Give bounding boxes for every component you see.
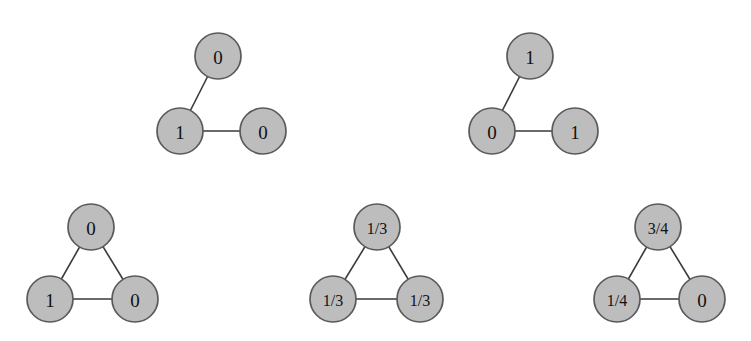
graph-node-label: 1/3 [367, 220, 387, 237]
graph-node: 0 [68, 204, 114, 250]
graph-node-label: 0 [86, 218, 96, 239]
graph-node: 3/4 [635, 204, 681, 250]
graph-node-label: 0 [487, 122, 497, 143]
graph-top-left: 010 [157, 33, 286, 154]
graph-bottom-middle: 1/31/31/3 [310, 204, 443, 322]
graph-node-label: 0 [697, 290, 707, 311]
graph-node: 1/3 [310, 276, 356, 322]
graph-node: 0 [240, 108, 286, 154]
graph-node: 1 [157, 108, 203, 154]
graph-node: 1/3 [397, 276, 443, 322]
graph-node-label: 1 [570, 122, 580, 143]
graph-top-right: 101 [469, 33, 598, 154]
graph-node-label: 1/4 [607, 292, 627, 309]
graph-node-label: 1 [525, 47, 535, 68]
graph-node: 1/3 [354, 204, 400, 250]
graph-node-label: 0 [258, 122, 268, 143]
graph-node-label: 0 [213, 47, 223, 68]
graph-node: 1 [507, 33, 553, 79]
graph-node-label: 1 [45, 290, 55, 311]
graph-node: 0 [195, 33, 241, 79]
graph-node-label: 1 [175, 122, 185, 143]
graph-node: 1 [552, 108, 598, 154]
graph-node-label: 1/3 [323, 292, 343, 309]
graph-node: 0 [679, 276, 725, 322]
graph-node-label: 3/4 [648, 220, 668, 237]
graph-figure: 0101010101/31/31/33/41/40 [0, 0, 751, 341]
graph-node-label: 0 [130, 290, 140, 311]
graph-node: 1/4 [594, 276, 640, 322]
graph-node-label: 1/3 [410, 292, 430, 309]
graph-bottom-right: 3/41/40 [594, 204, 725, 322]
graph-node: 1 [27, 276, 73, 322]
graph-bottom-left: 010 [27, 204, 158, 322]
graph-node: 0 [469, 108, 515, 154]
graph-node: 0 [112, 276, 158, 322]
